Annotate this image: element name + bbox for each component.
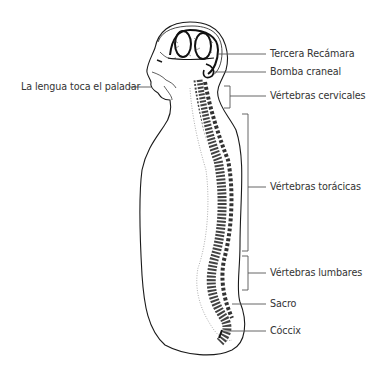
brain-icon xyxy=(168,30,218,78)
brain-texture xyxy=(174,38,213,56)
label-vertebras-lumbares: Vértebras lumbares xyxy=(270,267,362,279)
label-bomba-craneal: Bomba craneal xyxy=(270,66,341,78)
label-vertebras-toracicas: Vértebras torácicas xyxy=(270,181,361,193)
label-coccix: Cóccix xyxy=(270,325,301,337)
label-tercera-recamara: Tercera Recámara xyxy=(270,48,355,60)
label-lengua-paladar: La lengua toca el paladar xyxy=(21,81,140,93)
label-sacro: Sacro xyxy=(270,298,296,310)
label-vertebras-cervicales: Vértebras cervicales xyxy=(270,90,365,102)
